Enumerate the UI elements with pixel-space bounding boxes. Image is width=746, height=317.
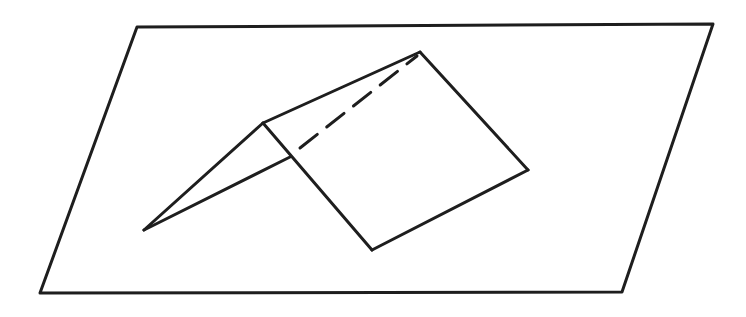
folded-plane-diagram: [0, 0, 746, 317]
panel-back-edge: [420, 52, 528, 170]
hidden-edge-dashed: [300, 56, 417, 148]
front-panel-edge: [263, 123, 372, 250]
ridge-line: [263, 52, 420, 123]
panel-bottom-edge: [372, 170, 528, 250]
base-plane: [40, 24, 713, 293]
left-upper-edge: [144, 123, 263, 230]
diagram-canvas: [0, 0, 746, 317]
left-lower-edge: [144, 157, 290, 230]
